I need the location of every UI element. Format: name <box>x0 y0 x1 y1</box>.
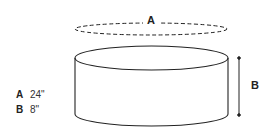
cylinder-top <box>75 46 228 70</box>
diameter-label: A <box>147 14 155 26</box>
dimension-endpoint-bottom <box>238 114 241 117</box>
legend-key: B <box>16 102 24 117</box>
height-dimension-line <box>238 57 241 117</box>
legend-row-a: A 24" <box>16 87 45 102</box>
legend-key: A <box>16 87 24 102</box>
cylinder-bottom <box>75 114 228 126</box>
dimension-endpoint-top <box>238 57 241 60</box>
dimension-legend: A 24" B 8" <box>16 87 45 117</box>
cylinder-shape <box>75 46 228 126</box>
legend-value: 8" <box>30 102 39 117</box>
legend-row-b: B 8" <box>16 102 45 117</box>
legend-value: 24" <box>30 87 45 102</box>
height-label: B <box>251 79 259 91</box>
